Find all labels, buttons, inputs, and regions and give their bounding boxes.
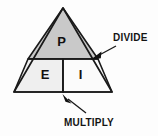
segment-bottom-right-shape bbox=[63, 59, 112, 92]
segment-label-i: I bbox=[79, 67, 83, 82]
operations-triangle-diagram: P E I DIVIDE MULTIPLY bbox=[0, 0, 158, 136]
diagram-canvas: P E I DIVIDE MULTIPLY bbox=[0, 0, 158, 136]
multiply-arrowhead-icon bbox=[63, 94, 72, 104]
segment-label-e: E bbox=[41, 67, 50, 82]
segment-label-p: P bbox=[57, 34, 66, 49]
segment-bottom-left-shape bbox=[14, 59, 63, 92]
multiply-label: MULTIPLY bbox=[64, 117, 114, 128]
divide-label: DIVIDE bbox=[113, 32, 148, 43]
multiply-leader-line bbox=[68, 99, 86, 113]
